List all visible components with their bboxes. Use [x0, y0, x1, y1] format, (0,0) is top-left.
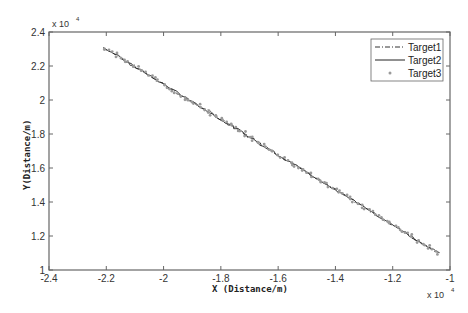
- data-point: [215, 115, 218, 118]
- data-point: [144, 71, 147, 74]
- data-point: [310, 176, 313, 179]
- y-tick-label: 2.2: [31, 61, 45, 72]
- data-point: [163, 84, 166, 87]
- data-point: [271, 150, 274, 153]
- data-point: [176, 92, 179, 95]
- data-point: [361, 203, 364, 206]
- data-point: [243, 135, 246, 138]
- data-point: [225, 121, 228, 124]
- data-point: [372, 210, 375, 213]
- data-point: [179, 95, 182, 98]
- data-point: [115, 56, 118, 59]
- legend-label-target3: Target3: [408, 68, 442, 79]
- data-point: [120, 57, 123, 60]
- data-point: [147, 74, 150, 77]
- data-point: [435, 250, 438, 253]
- y-multiplier-label: x 10: [52, 19, 69, 29]
- data-point: [297, 167, 300, 170]
- legend: Target1 Target2 Target3: [371, 39, 443, 81]
- data-point: [431, 248, 434, 251]
- data-point: [302, 168, 305, 171]
- data-point: [156, 79, 159, 82]
- data-point: [395, 225, 398, 228]
- data-point: [346, 194, 349, 197]
- data-point: [132, 65, 135, 68]
- data-point: [230, 124, 233, 127]
- data-point: [268, 148, 271, 151]
- data-point: [287, 159, 290, 162]
- y-axis-label: Y(Distance/m): [22, 120, 32, 190]
- data-point: [264, 145, 267, 148]
- x-tick-label: -1.8: [212, 273, 230, 284]
- data-point: [276, 154, 279, 157]
- data-point: [335, 187, 338, 190]
- data-point: [283, 156, 286, 159]
- y-tick-label: 1.8: [31, 129, 45, 140]
- data-point: [380, 216, 383, 219]
- legend-label-target1: Target1: [408, 42, 442, 53]
- data-point: [382, 218, 385, 221]
- y-tick-label: 2.4: [31, 27, 45, 38]
- data-point: [199, 103, 202, 106]
- data-point: [192, 102, 195, 105]
- data-point: [199, 106, 202, 109]
- data-point: [187, 99, 190, 102]
- data-point: [251, 139, 254, 142]
- data-point: [171, 90, 174, 93]
- data-point: [207, 111, 210, 114]
- data-point: [251, 136, 254, 139]
- data-point: [319, 181, 322, 184]
- data-point: [374, 213, 377, 216]
- data-point: [137, 65, 140, 68]
- data-point: [388, 222, 391, 225]
- data-point: [184, 98, 187, 101]
- data-point: [291, 161, 294, 164]
- data-point: [293, 165, 296, 168]
- legend-swatch-target3: [389, 72, 392, 75]
- legend-label-target2: Target2: [408, 55, 442, 66]
- data-point: [124, 60, 127, 63]
- data-point: [154, 76, 157, 79]
- y-multiplier-exp: 4: [76, 16, 80, 22]
- x-multiplier-label: x 10: [427, 290, 444, 300]
- data-point: [126, 60, 129, 63]
- data-point: [279, 156, 282, 159]
- y-tick-label: 1.2: [31, 231, 45, 242]
- x-axis-label: X (Distance/m): [212, 284, 288, 294]
- data-point: [116, 52, 119, 55]
- data-point: [103, 48, 106, 51]
- data-point: [404, 231, 407, 234]
- data-point: [234, 126, 237, 129]
- data-point: [151, 74, 154, 77]
- data-point: [166, 86, 169, 89]
- data-point: [173, 92, 176, 95]
- data-point: [111, 50, 114, 53]
- data-point: [256, 141, 259, 144]
- data-point: [331, 187, 334, 190]
- data-point: [263, 143, 266, 146]
- data-point: [337, 191, 340, 194]
- x-tick-label: -2.2: [98, 273, 116, 284]
- data-point: [305, 171, 308, 174]
- data-point: [378, 214, 381, 217]
- data-point: [427, 247, 430, 250]
- data-point: [428, 244, 431, 247]
- data-point: [357, 202, 360, 205]
- data-point: [397, 226, 400, 229]
- x-tick-label: -2: [159, 273, 168, 284]
- data-point: [368, 208, 371, 211]
- x-tick-label: -1.2: [384, 273, 402, 284]
- data-point: [349, 198, 352, 201]
- data-point: [108, 49, 111, 52]
- data-point: [423, 244, 426, 247]
- data-point: [341, 192, 344, 195]
- data-point: [325, 182, 328, 185]
- x-tick-label: -1: [446, 273, 455, 284]
- y-tick-label: 1.4: [31, 197, 45, 208]
- data-point: [406, 231, 409, 234]
- x-multiplier-exp: 4: [451, 287, 455, 293]
- data-point: [209, 114, 212, 117]
- data-point: [221, 119, 224, 122]
- y-tick-label: 1.6: [31, 163, 45, 174]
- data-point: [244, 130, 247, 133]
